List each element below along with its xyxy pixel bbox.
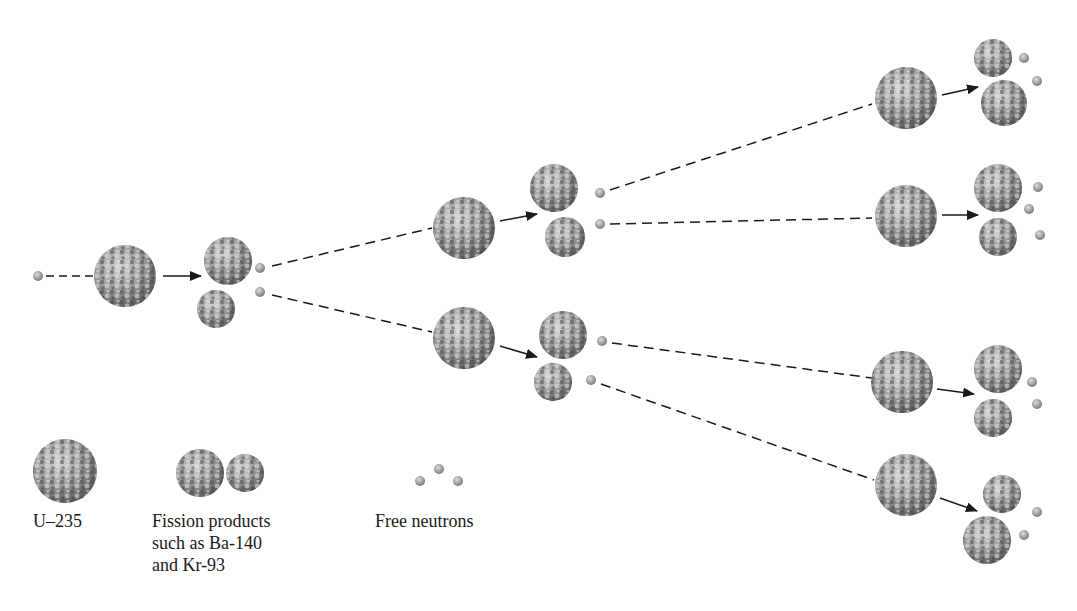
legend-fission-line1: Fission products [152, 510, 271, 532]
legend-u235-label: U–235 [33, 510, 82, 532]
legend-fission-products-icon [176, 449, 264, 497]
fission-product-icon [530, 164, 585, 257]
fission-product-icon [963, 39, 1027, 564]
u235-nucleus-icon [433, 197, 495, 369]
neutron-icon [1019, 53, 1045, 540]
neutron-icon [33, 271, 43, 281]
legend-neutrons-icon [415, 464, 463, 486]
legend-fission-line3: and Kr-93 [152, 554, 271, 576]
legend-neutrons-label: Free neutrons [375, 510, 473, 532]
fission-product-icon [197, 237, 252, 328]
u235-nucleus-icon [871, 67, 937, 516]
fission-product-icon [534, 311, 587, 401]
legend-fission-line2: such as Ba-140 [152, 532, 271, 554]
legend-fission-products-label: Fission products such as Ba-140 and Kr-9… [152, 510, 271, 576]
neutron-icon [255, 263, 265, 297]
u235-nucleus-icon [94, 245, 156, 307]
legend-u235-icon [33, 439, 97, 503]
neutron-icon [586, 336, 607, 385]
neutron-icon [595, 188, 605, 229]
